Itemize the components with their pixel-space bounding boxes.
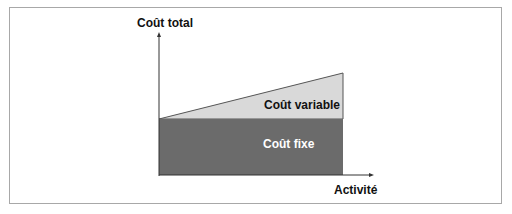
variable-cost-label: Coût variable (264, 98, 340, 112)
x-axis-arrow-icon (369, 173, 374, 177)
fixed-cost-area (159, 119, 343, 175)
variable-cost-area (159, 73, 343, 119)
cost-diagram (0, 0, 512, 214)
fixed-cost-label: Coût fixe (263, 137, 314, 151)
x-axis-label: Activité (334, 183, 377, 197)
y-axis-arrow-icon (157, 32, 161, 37)
y-axis-label: Coût total (137, 16, 193, 30)
